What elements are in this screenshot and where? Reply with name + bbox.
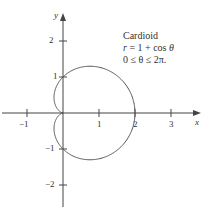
y-tick-label: 1 (53, 72, 58, 81)
cardioid-annotation: Cardioid r = 1 + cos θ 0 ≤ θ ≤ 2π. (123, 30, 174, 66)
y-tick-label: 2 (49, 36, 54, 45)
annotation-title: Cardioid (123, 30, 174, 42)
cardioid-figure: y x −1 1 2 3 2 1 −1 −2 Cardioid r = 1 + … (0, 0, 209, 215)
annotation-domain: 0 ≤ θ ≤ 2π. (123, 54, 174, 66)
x-tick-label: 3 (169, 120, 174, 129)
y-axis-label: y (54, 11, 58, 20)
y-tick-label: −1 (45, 144, 55, 153)
x-tick-label: 2 (133, 120, 138, 129)
x-axis-label: x (195, 118, 199, 127)
x-tick-label: −1 (19, 120, 29, 129)
x-tick-label: 1 (97, 120, 102, 129)
x-axis-arrow-icon (193, 110, 201, 116)
plot-area (0, 0, 209, 215)
y-axis-arrow-icon (60, 13, 66, 21)
annotation-equation: r = 1 + cos θ (123, 42, 174, 54)
y-tick-label: −2 (45, 180, 55, 189)
